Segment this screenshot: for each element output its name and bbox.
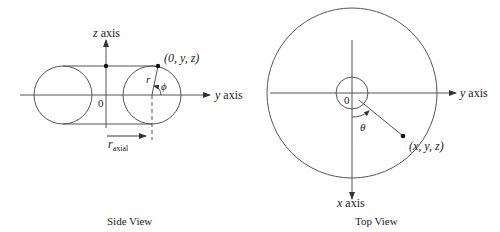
r-label: r bbox=[146, 73, 151, 85]
y-axis-label: y axis bbox=[459, 86, 488, 100]
z-axis-label: z axis bbox=[92, 26, 120, 40]
theta-label: θ bbox=[360, 121, 366, 133]
top-view: y axis x axis 0 θ (x, y, z) Top View bbox=[267, 8, 488, 227]
point-label: (x, y, z) bbox=[409, 139, 444, 153]
diagram-canvas: z axis y axis 0 (0, y, z) r ϕ raxial Sid… bbox=[0, 0, 500, 232]
y-axis-label: y axis bbox=[214, 88, 243, 102]
top-view-title: Top View bbox=[355, 215, 398, 227]
side-view: z axis y axis 0 (0, y, z) r ϕ raxial Sid… bbox=[20, 26, 243, 227]
theta-angle-arc bbox=[352, 111, 369, 117]
x-axis-label: x axis bbox=[336, 196, 365, 210]
point-dot bbox=[156, 64, 160, 68]
point-label: (0, y, z) bbox=[164, 51, 199, 65]
origin-label: 0 bbox=[344, 94, 350, 106]
origin-label: 0 bbox=[98, 97, 104, 109]
phi-angle-arc bbox=[154, 86, 161, 95]
origin-top-dot bbox=[104, 64, 108, 68]
side-view-title: Side View bbox=[107, 215, 152, 227]
radius-line bbox=[359, 100, 403, 136]
phi-label: ϕ bbox=[161, 80, 167, 92]
point-dot bbox=[401, 134, 406, 139]
radius-line bbox=[152, 66, 158, 95]
r-axial-label: raxial bbox=[108, 137, 129, 153]
